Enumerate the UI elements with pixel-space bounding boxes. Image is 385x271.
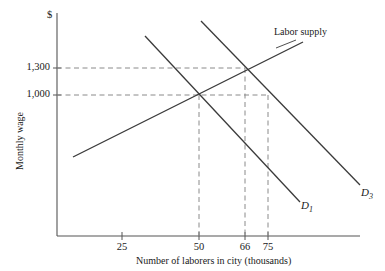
x-tick-label-25: 25 bbox=[108, 241, 136, 252]
demand-curve-d1-label: D1 bbox=[301, 199, 313, 214]
currency-symbol: $ bbox=[47, 9, 52, 20]
x-tick-label-50: 50 bbox=[185, 241, 213, 252]
d3-letter: D bbox=[361, 186, 369, 198]
y-tick-label-1300: 1,300 bbox=[6, 61, 50, 72]
x-tick-label-75: 75 bbox=[254, 241, 282, 252]
labor-supply-label: Labor supply bbox=[274, 26, 327, 37]
x-axis-title: Number of laborers in city (thousands) bbox=[136, 255, 291, 266]
d1-letter: D bbox=[301, 199, 309, 211]
demand-curve-d3-label: D3 bbox=[361, 186, 373, 201]
d1-subscript: 1 bbox=[309, 205, 313, 214]
demand-curve-d1 bbox=[145, 36, 300, 202]
y-axis-title: Monthly wage bbox=[14, 112, 25, 170]
y-tick-label-1000: 1,000 bbox=[6, 88, 50, 99]
d3-subscript: 3 bbox=[369, 192, 373, 201]
demand-curve-d3 bbox=[201, 21, 360, 185]
chart-canvas bbox=[0, 0, 385, 271]
labor-market-chart: $ 1,300 1,000 25 50 66 75 Monthly wage N… bbox=[0, 0, 385, 271]
